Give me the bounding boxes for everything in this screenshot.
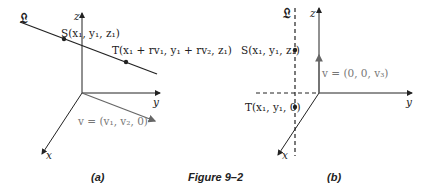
panel-b-caption: (b) — [327, 172, 341, 183]
panel-b-axis-z-label: z — [310, 8, 316, 19]
panel-a-vector-label: v = (v₁, v₂, 0) — [78, 116, 148, 127]
panel-b-axis-y-label: y — [406, 97, 412, 108]
figure-caption: Figure 9–2 — [188, 172, 243, 183]
panel-b-axes — [256, 8, 412, 155]
panel-a-point-s-label: S(x₁, y₁, z₁) — [61, 28, 120, 39]
panel-a-axis-y-label: y — [153, 97, 159, 108]
panel-b-vector-label: v = (0, 0, v₃) — [322, 68, 388, 79]
panel-b-point-s-label: S(x₁, y₁, z₁) — [241, 45, 300, 56]
panel-b-line-L — [293, 8, 297, 156]
panel-a-point-t-label: T(x₁ + rv₁, y₁ + rv₂, z₁) — [112, 45, 232, 56]
panel-b-axis-x-label: x — [282, 150, 288, 161]
panel-a-axis-x-label: x — [46, 150, 52, 161]
panel-b-line-label: 𝔏 — [283, 7, 291, 20]
panel-a-line-label: 𝔏 — [20, 12, 28, 25]
panel-b-point-t-label: T(x₁, y₁, 0) — [245, 102, 301, 113]
panel-a-axis-z-label: z — [74, 11, 80, 22]
panel-a-caption: (a) — [91, 172, 104, 183]
